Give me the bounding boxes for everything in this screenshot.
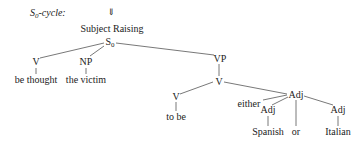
leaf-italian: Italian — [325, 127, 351, 137]
node-np: NP — [80, 57, 93, 67]
node-v-left: V — [32, 57, 39, 67]
rule-name: Subject Raising — [80, 24, 143, 34]
node-v-low: V — [172, 92, 179, 102]
leaf-either: either — [238, 99, 261, 109]
node-vp: VP — [214, 54, 227, 64]
leaf-be-thought: be thought — [15, 75, 58, 85]
node-adj-top: Adj — [289, 90, 304, 100]
leaf-to-be: to be — [166, 112, 186, 122]
cycle-label: S0-cycle: — [30, 8, 66, 21]
leaf-or: or — [292, 127, 300, 137]
node-v-mid: V — [215, 77, 222, 87]
node-adj-left: Adj — [261, 105, 276, 115]
down-double-arrow-icon: ⇓ — [107, 7, 115, 17]
leaf-the-victim: the victim — [66, 75, 106, 85]
node-adj-right: Adj — [331, 105, 346, 115]
node-s0: S0 — [105, 37, 114, 50]
leaf-spanish: Spanish — [252, 127, 284, 137]
